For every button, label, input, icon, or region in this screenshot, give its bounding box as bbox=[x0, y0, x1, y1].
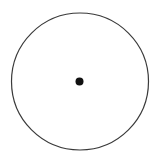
diagram-canvas bbox=[0, 0, 157, 163]
center-point-dot bbox=[76, 78, 84, 86]
circle-diagram bbox=[0, 0, 157, 163]
